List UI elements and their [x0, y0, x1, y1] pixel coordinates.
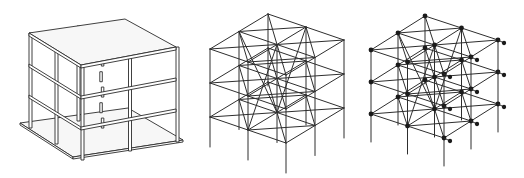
joint-node — [475, 90, 479, 94]
joint-node — [405, 92, 410, 97]
figure-svg — [0, 0, 524, 178]
joint-node — [448, 75, 452, 79]
wireframe-model — [210, 14, 344, 173]
joint-node — [432, 75, 437, 80]
node-frame-model — [369, 14, 507, 166]
column — [176, 47, 179, 142]
joint-node — [432, 107, 437, 112]
column-stub — [100, 72, 103, 82]
column — [129, 56, 132, 151]
joint-node — [423, 14, 428, 19]
joint-node — [459, 26, 464, 31]
structural-models-figure — [0, 0, 524, 178]
joint-node — [369, 80, 374, 85]
joint-node — [475, 122, 479, 126]
joint-node — [396, 63, 401, 68]
joint-node — [502, 105, 506, 109]
joint-node — [369, 112, 374, 117]
brace — [371, 109, 435, 114]
joint-node — [502, 73, 506, 77]
vertical-brace — [408, 45, 435, 126]
column — [81, 65, 84, 160]
joint-node — [396, 95, 401, 100]
joint-node — [502, 41, 506, 45]
joint-node — [405, 60, 410, 65]
column — [55, 49, 58, 144]
joint-node — [448, 139, 452, 143]
joint-node — [423, 78, 428, 83]
joint-node — [405, 124, 410, 129]
joint-node — [475, 58, 479, 62]
joint-node — [369, 48, 374, 53]
brace — [435, 40, 499, 45]
vertical-brace — [435, 28, 462, 109]
joint-node — [459, 90, 464, 95]
roof-slab — [29, 19, 176, 65]
joint-node — [423, 46, 428, 51]
solid-building-model — [20, 19, 183, 160]
brace — [408, 121, 472, 126]
joint-node — [448, 107, 452, 111]
joint-node — [459, 58, 464, 63]
column-stub — [100, 103, 103, 113]
joint-node — [396, 31, 401, 36]
column — [29, 33, 32, 128]
joint-node — [432, 43, 437, 48]
brace — [398, 28, 462, 33]
vertical-brace — [398, 33, 435, 109]
